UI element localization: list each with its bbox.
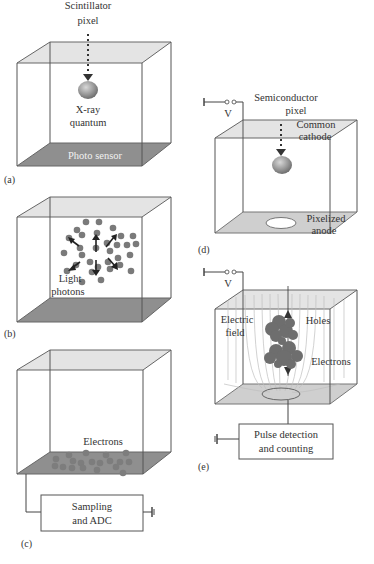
xray-quantum-label-2: quantum xyxy=(70,117,107,128)
photo-sensor-label: Photo sensor xyxy=(68,150,122,161)
common-cathode-label: Common xyxy=(296,119,336,130)
light-photons-label-2: photons xyxy=(51,286,84,297)
semiconductor-pixel-title-2: pixel xyxy=(286,105,307,116)
electrons-charge-cloud xyxy=(264,341,303,369)
common-cathode-label-2: cathode xyxy=(299,131,332,142)
light-photons-label: Light xyxy=(59,273,82,284)
voltage-label-d: V xyxy=(224,108,232,119)
xray-quantum-ball xyxy=(272,156,292,174)
voltage-label-e: V xyxy=(224,278,232,289)
panel-a-scintillator: Scintillator pixel X-ray quantum Photo s… xyxy=(4,0,171,186)
sampling-adc-label-2: and ADC xyxy=(72,515,111,526)
panel-label-c: (c) xyxy=(21,538,32,550)
pulse-detection-label-2: and counting xyxy=(259,443,314,454)
panel-label-d: (d) xyxy=(198,244,210,256)
panel-b-light-photons: Light photons (b) xyxy=(4,197,171,340)
panel-d-semiconductor: V Semiconductor pixel Common cathode Pix… xyxy=(198,92,357,256)
panel-label-e: (e) xyxy=(198,461,209,473)
electrons-label: Electrons xyxy=(83,436,123,447)
ground-icon xyxy=(215,434,239,444)
holes-label: Holes xyxy=(306,315,331,326)
pixelized-anode-label-2: anode xyxy=(311,225,336,236)
panel-c-electrons-readout: Electrons Sampling and ADC (c) xyxy=(17,350,171,550)
scintillator-pixel-title: Scintillator xyxy=(65,0,112,11)
common-cathode-face xyxy=(215,120,357,138)
panel-label-b: (b) xyxy=(4,328,16,340)
scintillator-pixel-title-2: pixel xyxy=(78,15,99,26)
sampling-adc-label: Sampling xyxy=(72,501,113,512)
pulse-detection-label: Pulse detection xyxy=(254,429,319,440)
detector-diagram: Scintillator pixel X-ray quantum Photo s… xyxy=(0,0,374,564)
electrons-label: Electrons xyxy=(311,356,351,367)
arrow-head-icon xyxy=(83,74,93,81)
electric-field-label: Electric xyxy=(221,314,254,325)
anode-pixel-ellipse xyxy=(266,218,296,229)
panel-label-a: (a) xyxy=(4,174,15,186)
arrow-head-icon xyxy=(276,149,286,156)
pixelized-anode-label: Pixelized xyxy=(306,213,346,224)
xray-quantum-label: X-ray xyxy=(76,104,101,115)
semiconductor-pixel-title: Semiconductor xyxy=(254,92,318,103)
xray-quantum-ball xyxy=(78,81,98,99)
holes-arrow-icon xyxy=(284,310,292,318)
panel-e-charge-collection: V Electric field Holes Electrons Pulse d… xyxy=(198,268,357,473)
readout-wire xyxy=(26,474,41,512)
ground-icon xyxy=(143,507,154,517)
electric-field-label-2: field xyxy=(225,327,245,338)
scintillator-top-face xyxy=(17,42,171,63)
